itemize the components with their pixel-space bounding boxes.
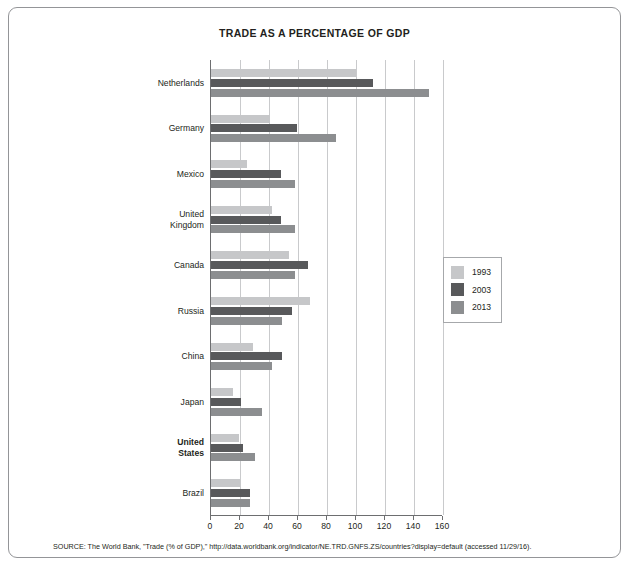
bar-group xyxy=(211,69,442,97)
bar xyxy=(211,343,253,351)
bar-group xyxy=(211,206,442,234)
x-tick-120 xyxy=(384,516,385,520)
legend-swatch-2003 xyxy=(451,283,464,296)
x-tick-label-120: 120 xyxy=(377,521,391,531)
bar xyxy=(211,297,310,305)
bar xyxy=(211,261,308,269)
category-label-canada: Canada xyxy=(105,260,204,271)
category-label-netherlands: Netherlands xyxy=(105,78,204,89)
legend-item-2013[interactable]: 2013 xyxy=(451,300,491,314)
category-label-mexico: Mexico xyxy=(105,169,204,180)
bar xyxy=(211,352,282,360)
x-tick-label-20: 20 xyxy=(234,521,244,531)
legend-swatch-2013 xyxy=(451,301,464,314)
bar xyxy=(211,408,262,416)
bar xyxy=(211,134,336,142)
x-tick-label-80: 80 xyxy=(321,521,331,531)
legend-label-2013: 2013 xyxy=(472,302,491,312)
x-tick-label-140: 140 xyxy=(406,521,420,531)
bar xyxy=(211,388,233,396)
legend-item-2003[interactable]: 2003 xyxy=(451,283,491,297)
x-tick-60 xyxy=(297,516,298,520)
x-axis: 020406080100120140160 xyxy=(210,516,442,536)
bar xyxy=(211,89,429,97)
bar xyxy=(211,307,292,315)
bar xyxy=(211,489,250,497)
bar xyxy=(211,434,239,442)
bar xyxy=(211,317,282,325)
bar xyxy=(211,362,272,370)
category-label-united-states: UnitedStates xyxy=(105,437,204,458)
bar xyxy=(211,251,289,259)
bar xyxy=(211,271,295,279)
bar xyxy=(211,479,240,487)
bar xyxy=(211,124,297,132)
x-tick-label-40: 40 xyxy=(263,521,273,531)
x-tick-20 xyxy=(239,516,240,520)
bar-group xyxy=(211,434,442,462)
chart-title: TRADE AS A PERCENTAGE OF GDP xyxy=(9,27,620,39)
bar xyxy=(211,180,295,188)
x-tick-140 xyxy=(413,516,414,520)
category-axis-labels: NetherlandsGermanyMexicoUnitedKingdomCan… xyxy=(105,60,204,516)
bar xyxy=(211,225,295,233)
bar-group xyxy=(211,115,442,143)
bar xyxy=(211,499,250,507)
x-tick-label-160: 160 xyxy=(435,521,449,531)
legend-label-2003: 2003 xyxy=(472,285,491,295)
category-label-russia: Russia xyxy=(105,306,204,317)
bar xyxy=(211,115,270,123)
source-note: SOURCE: The World Bank, "Trade (% of GDP… xyxy=(53,542,531,551)
bar xyxy=(211,216,281,224)
figure-frame: TRADE AS A PERCENTAGE OF GDP Netherlands… xyxy=(8,7,621,558)
bar xyxy=(211,444,243,452)
x-tick-label-0: 0 xyxy=(208,521,213,531)
plot-area xyxy=(210,60,442,516)
category-label-japan: Japan xyxy=(105,397,204,408)
legend-label-1993: 1993 xyxy=(472,267,491,277)
bar xyxy=(211,69,356,77)
chart-legend: 199320032013 xyxy=(443,257,502,323)
bar xyxy=(211,160,247,168)
x-tick-80 xyxy=(326,516,327,520)
bar-group xyxy=(211,479,442,507)
legend-swatch-1993 xyxy=(451,266,464,279)
bars-layer xyxy=(211,60,442,515)
x-tick-100 xyxy=(355,516,356,520)
x-tick-0 xyxy=(210,516,211,520)
bar xyxy=(211,170,281,178)
category-label-brazil: Brazil xyxy=(105,488,204,499)
x-tick-label-60: 60 xyxy=(292,521,302,531)
x-tick-160 xyxy=(442,516,443,520)
bar-group xyxy=(211,160,442,188)
bar xyxy=(211,206,272,214)
bar-group xyxy=(211,297,442,325)
category-label-china: China xyxy=(105,351,204,362)
bar xyxy=(211,79,373,87)
bar-group xyxy=(211,343,442,371)
category-label-united-kingdom: UnitedKingdom xyxy=(105,209,204,230)
legend-item-1993[interactable]: 1993 xyxy=(451,265,491,279)
x-tick-40 xyxy=(268,516,269,520)
bar-group xyxy=(211,388,442,416)
bar xyxy=(211,398,241,406)
bar xyxy=(211,453,255,461)
bar-group xyxy=(211,251,442,279)
x-tick-label-100: 100 xyxy=(348,521,362,531)
category-label-germany: Germany xyxy=(105,123,204,134)
